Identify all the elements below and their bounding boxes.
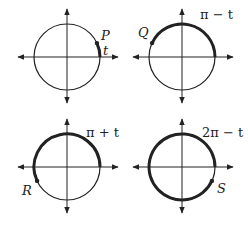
point-label: P xyxy=(100,28,110,43)
panel-s: S 2π − t xyxy=(133,119,244,213)
arc-label: t xyxy=(103,43,109,58)
unit-circle-diagram: P t Q π − t R π + t S 2π − t xyxy=(0,0,248,231)
arc-label: π − t xyxy=(200,7,234,22)
point-r xyxy=(35,179,39,183)
arc-label: π + t xyxy=(86,125,120,140)
point-s xyxy=(210,179,214,183)
panel-p: P t xyxy=(18,9,118,103)
arc-pi-minus-t xyxy=(152,24,215,57)
panel-r: R π + t xyxy=(18,119,120,213)
point-label: S xyxy=(217,181,226,196)
point-p xyxy=(95,41,99,45)
point-label: Q xyxy=(138,25,149,40)
panel-q: Q π − t xyxy=(133,7,234,103)
point-q xyxy=(150,41,154,45)
point-label: R xyxy=(21,183,32,198)
arc-label: 2π − t xyxy=(202,125,244,140)
